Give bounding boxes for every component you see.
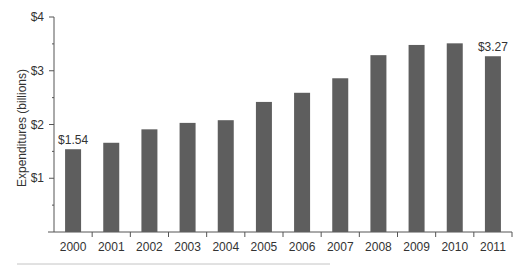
expenditures-bar-chart: $1$2$3$4 2000200120022003200420052006200… <box>0 0 528 265</box>
y-axis: $1$2$3$4 <box>31 10 54 232</box>
bar-2010 <box>447 43 463 232</box>
bar-2004 <box>218 120 234 232</box>
x-tick-label: 2002 <box>136 240 163 254</box>
bar-2007 <box>332 78 348 232</box>
y-tick-label: $4 <box>31 10 45 24</box>
bar-2005 <box>256 102 272 232</box>
bar-2006 <box>294 93 310 232</box>
bar-series <box>65 43 501 232</box>
x-tick-label: 2006 <box>289 240 316 254</box>
bar-2000 <box>65 149 81 232</box>
bar-2003 <box>180 123 196 232</box>
bar-2008 <box>370 55 386 232</box>
x-tick-label: 2010 <box>441 240 468 254</box>
bar-2009 <box>409 45 425 232</box>
x-tick-label: 2000 <box>60 240 87 254</box>
x-tick-label: 2003 <box>174 240 201 254</box>
x-tick-label: 2007 <box>327 240 354 254</box>
y-tick-label: $3 <box>31 64 45 78</box>
x-axis: 2000200120022003200420052006200720082009… <box>48 232 512 254</box>
x-tick-label: 2001 <box>98 240 125 254</box>
x-tick-label: 2011 <box>480 240 506 254</box>
bar-2002 <box>141 129 157 232</box>
y-axis-title: Expenditures (billions) <box>15 69 29 187</box>
y-tick-label: $2 <box>31 118 45 132</box>
bar-2011 <box>485 56 501 232</box>
x-tick-label: 2009 <box>403 240 430 254</box>
data-annotations: $1.54$3.27 <box>58 40 508 147</box>
bar-2001 <box>103 143 119 232</box>
value-label: $3.27 <box>478 40 508 54</box>
x-tick-label: 2008 <box>365 240 392 254</box>
x-tick-label: 2004 <box>212 240 239 254</box>
value-label: $1.54 <box>58 133 88 147</box>
x-tick-label: 2005 <box>251 240 278 254</box>
y-tick-label: $1 <box>31 171 45 185</box>
